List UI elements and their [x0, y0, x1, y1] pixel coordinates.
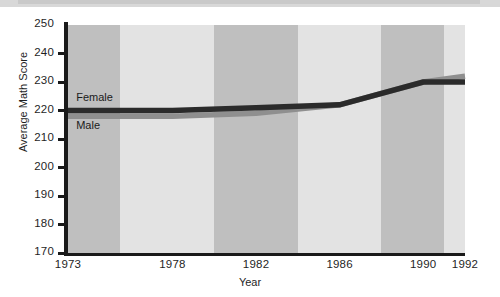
series-label-male: Male: [76, 119, 100, 131]
series-lines: [68, 25, 465, 253]
x-tick-label-1973: 1973: [46, 258, 90, 270]
x-axis-title: Year: [0, 276, 500, 288]
plot-area: Female Male: [68, 25, 465, 253]
y-tick-label-180: 180: [24, 217, 54, 229]
y-tick-label-170: 170: [24, 245, 54, 257]
y-tick-label-190: 190: [24, 188, 54, 200]
x-tick-label-1992: 1992: [443, 258, 487, 270]
x-tick-label-1990: 1990: [401, 258, 445, 270]
x-tick-label-1986: 1986: [318, 258, 362, 270]
x-tick-label-1978: 1978: [150, 258, 194, 270]
y-axis-title: Average Math Score: [17, 32, 29, 172]
scan-edge-strip-inner: [18, 0, 480, 4]
scan-edge-strip: [0, 0, 500, 7]
x-tick-label-1982: 1982: [234, 258, 278, 270]
series-label-female: Female: [76, 91, 113, 103]
y-tick-label-250: 250: [24, 17, 54, 29]
line-female: [68, 82, 465, 111]
chart-figure: 170180190200210220230240250 Female Male …: [0, 0, 500, 297]
